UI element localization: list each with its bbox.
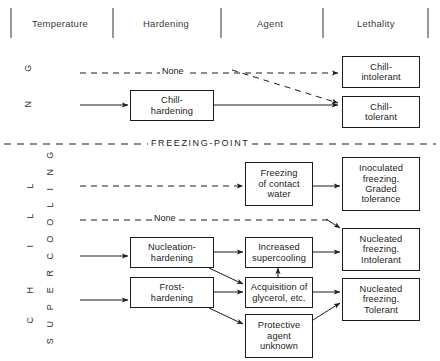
box-chill-tolerant[interactable]: Chill-tolerant [342,96,420,128]
edge-label-none-upper: None [160,66,186,76]
column-header-temperature: Temperature [32,18,88,29]
axis-letter-supercooling-7: R [45,267,55,279]
box-acquisition-of-glycerol[interactable]: Acquisition ofglycerol, etc. [245,277,313,308]
box-chill-intolerant[interactable]: Chill-intolerant [342,56,420,88]
edge-none-to-chill-tolerant [232,70,338,103]
box-nucleated-freezing-tolerant[interactable]: Nucleatedfreezing.Tolerant [342,278,420,321]
axis-letter-supercooling-3: L [45,199,55,211]
axis-letter-supercooling-2: I [45,183,55,195]
box-nucleated-freezing-tolerant-label: Nucleatedfreezing.Tolerant [358,284,405,315]
column-header-hardening: Hardening [143,18,189,29]
axis-letter-supercooling-8: E [45,284,55,296]
edge-nucleation-to-acquisition [209,268,243,284]
box-chill-hardening[interactable]: Chill-hardening [130,90,214,121]
column-header-lethality: Lethality [357,18,395,29]
box-nucleation-hardening-label: Nucleation-hardening [146,242,198,263]
box-protective-agent-unknown[interactable]: Protectiveagentunknown [245,314,313,358]
axis-letter-chilling-n: N [23,98,33,110]
box-frost-hardening-label: Frost-hardening [149,282,195,303]
edge-protective-agent-to-tolerant [313,303,340,320]
axis-letter-supercooling-10: U [45,318,55,330]
axis-letter-supercooling-9: P [45,301,55,313]
box-chill-hardening-label: Chill-hardening [149,95,195,116]
box-protective-agent-unknown-label: Protectiveagentunknown [256,320,302,351]
axis-letter-chill-3: H [25,284,35,296]
box-inoculated-freezing-label: Inoculatedfreezing.Gradedtolerance [357,163,405,205]
edge-frost-to-protective-agent [209,308,243,324]
box-nucleated-freezing-intolerant-label: Nucleatedfreezing.Intolerant [358,234,405,265]
column-header-agent: Agent [257,18,283,29]
edge-none-lower-b [326,219,340,228]
box-increased-supercooling-label: Increasedsupercooling [250,242,308,263]
axis-letter-supercooling-6: C [45,250,55,262]
box-frost-hardening[interactable]: Frost-hardening [130,277,214,308]
box-freezing-of-contact-water[interactable]: Freezingof contactwater [245,162,313,206]
axis-letter-chill-4: C [25,314,35,326]
axis-letter-chilling-g: G [23,62,33,74]
box-nucleation-hardening[interactable]: Nucleation-hardening [130,237,214,268]
axis-letter-supercooling-4: O [45,216,55,228]
diagram-canvas: Temperature Hardening Agent Lethality G … [0,0,440,361]
box-nucleated-freezing-intolerant[interactable]: Nucleatedfreezing.Intolerant [342,228,420,271]
freezing-point-label: FREEZING-POINT [148,138,252,148]
box-freezing-of-contact-water-label: Freezingof contactwater [256,168,301,199]
axis-letter-supercooling-1: N [45,166,55,178]
box-chill-intolerant-label: Chill-intolerant [359,62,402,83]
axis-letter-supercooling-5: O [45,233,55,245]
axis-letter-supercooling-0: G [45,149,55,161]
box-acquisition-of-glycerol-label: Acquisition ofglycerol, etc. [249,282,310,303]
edge-label-none-lower: None [152,213,178,223]
axis-letter-supercooling-11: S [45,335,55,347]
box-increased-supercooling[interactable]: Increasedsupercooling [245,237,313,268]
box-chill-tolerant-label: Chill-tolerant [363,102,399,123]
box-inoculated-freezing[interactable]: Inoculatedfreezing.Gradedtolerance [342,157,420,211]
axis-letter-chill-2: I [25,240,35,252]
axis-letter-chill-1: L [25,210,35,222]
axis-letter-chill-0: L [25,180,35,192]
